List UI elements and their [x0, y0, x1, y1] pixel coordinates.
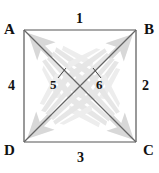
side-label-4: 4: [8, 79, 15, 93]
vertex-label-D: D: [4, 143, 15, 158]
vertex-label-B: B: [144, 22, 154, 37]
side-label-2: 2: [142, 79, 149, 93]
angle-label-6: 6: [96, 78, 103, 91]
angle-label-5: 5: [50, 78, 57, 91]
side-label-1: 1: [76, 12, 83, 26]
side-label-3: 3: [77, 151, 84, 165]
angle-5-leader-line: [58, 68, 66, 78]
vertex-label-A: A: [4, 22, 15, 37]
geometry-figure: A B C D 1 2 3 4 5 6: [0, 0, 159, 173]
vertex-label-C: C: [143, 143, 154, 158]
